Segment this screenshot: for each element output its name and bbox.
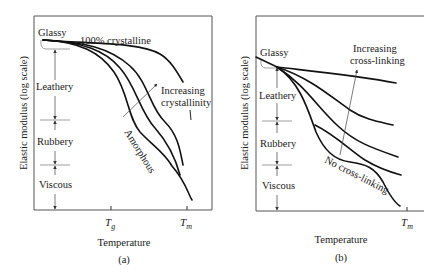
panel-b-label-increasing: Increasing <box>353 43 397 54</box>
panel-b-caption: (b) <box>335 252 348 264</box>
panel-b-region-rubbery: Rubbery <box>260 138 297 149</box>
panel-a-tick-label-tm: Tm <box>180 216 192 231</box>
panel-a: Elastic modulus (log scale) Glassy Leath… <box>18 16 212 266</box>
panel-a-region-rubbery: Rubbery <box>37 136 74 147</box>
panel-b-region-glassy: Glassy <box>260 47 289 58</box>
panel-b-label-cross-linking: cross-linking <box>350 55 406 66</box>
panel-a-label-crystallinity: crystallinity <box>161 97 212 108</box>
panel-a-region-leathery: Leathery <box>36 81 74 92</box>
panel-b-x-axis-label: Temperature <box>315 234 368 245</box>
panel-b: Elastic modulus (log scale) Glassy Leath… <box>239 16 424 264</box>
polymer-modulus-diagram: Elastic modulus (log scale) Glassy Leath… <box>0 0 424 272</box>
panel-a-region-glassy: Glassy <box>38 27 67 38</box>
panel-a-caption: (a) <box>118 254 130 266</box>
panel-a-label-100-crystalline: 100% crystalline <box>80 35 151 46</box>
panel-b-y-axis-label: Elastic modulus (log scale) <box>239 55 251 170</box>
panel-b-label-no-crosslinking: No cross-linking <box>323 154 391 196</box>
panel-a-label-amorphous: Amorphous <box>122 127 158 175</box>
panel-a-label-increasing: Increasing <box>161 85 205 96</box>
panel-a-tick-label-tg: Tg <box>105 216 115 231</box>
panel-b-tick-label-tm: Tm <box>401 216 413 231</box>
panel-a-crystallinity-tick <box>190 110 191 120</box>
panel-b-region-leathery: Leathery <box>259 90 297 101</box>
panel-a-y-axis-label: Elastic modulus (log scale) <box>18 55 30 170</box>
panel-b-region-viscous: Viscous <box>262 180 295 191</box>
panel-a-curve-mid-crystallinity <box>43 40 180 175</box>
panel-a-region-viscous: Viscous <box>39 179 72 190</box>
panel-a-x-axis-label: Temperature <box>98 237 151 248</box>
